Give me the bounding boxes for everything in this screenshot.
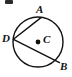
center-point-dot: [36, 40, 41, 45]
point-label-a: A: [36, 4, 43, 15]
center-label-c: C: [43, 34, 50, 45]
point-label-b: B: [60, 61, 67, 72]
geometry-figure: A B D C: [0, 0, 72, 77]
point-label-d: D: [2, 33, 10, 44]
